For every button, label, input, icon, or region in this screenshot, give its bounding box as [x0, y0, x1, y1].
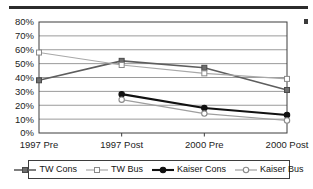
series-line — [39, 53, 287, 79]
data-point-marker — [202, 65, 207, 70]
y-axis-tick-label: 80% — [15, 16, 35, 27]
data-series-group — [37, 50, 290, 123]
legend-item-kaiser-bus[interactable]: Kaiser Bus — [235, 165, 304, 175]
legend-marker-icon — [152, 165, 174, 175]
legend-marker-icon — [86, 165, 108, 175]
y-axis-tick-label: 70% — [15, 30, 35, 41]
data-point-marker — [202, 111, 207, 116]
x-axis-tick-label: 1997 Pre — [20, 139, 59, 150]
x-axis-tick-label: 1997 Post — [100, 139, 143, 150]
legend-item-tw-cons[interactable]: TW Cons — [14, 165, 77, 175]
x-axis-tick-labels: 1997 Pre1997 Post2000 Pre2000 Post — [20, 139, 309, 150]
data-point-marker — [202, 71, 207, 76]
data-point-marker — [37, 50, 42, 55]
legend-item-tw-bus[interactable]: TW Bus — [86, 165, 143, 175]
legend-item-label: Kaiser Cons — [177, 165, 226, 174]
y-axis-tick-label: 0% — [20, 127, 34, 138]
legend-marker-icon — [235, 165, 257, 175]
y-axis-tick-label: 20% — [15, 100, 35, 111]
data-point-marker — [284, 112, 289, 117]
series-line — [39, 61, 287, 90]
data-series — [37, 50, 290, 81]
x-axis-tick-label: 2000 Post — [266, 139, 309, 150]
data-point-marker — [202, 105, 207, 110]
legend-item-label: TW Cons — [39, 165, 77, 174]
y-axis-tick-label: 50% — [15, 58, 35, 69]
data-point-marker — [119, 91, 124, 96]
legend-marker-icon — [14, 165, 36, 175]
data-point-marker — [285, 87, 290, 92]
y-axis-tick-label: 30% — [15, 86, 35, 97]
y-axis-tick-label: 40% — [15, 72, 35, 83]
y-axis-tick-labels: 0%10%20%30%40%50%60%70%80% — [15, 16, 35, 138]
data-point-marker — [37, 78, 42, 83]
x-axis-tick-label: 2000 Pre — [185, 139, 224, 150]
y-axis-tick-label: 60% — [15, 44, 35, 55]
chart-legend: TW ConsTW BusKaiser ConsKaiser Bus — [28, 160, 290, 179]
data-point-marker — [285, 76, 290, 81]
x-axis-tick-marks — [122, 133, 205, 137]
legend-item-label: TW Bus — [111, 165, 143, 174]
chart-figure: 0%10%20%30%40%50%60%70%80% 1997 Pre1997 … — [0, 0, 313, 189]
legend-item-kaiser-cons[interactable]: Kaiser Cons — [152, 165, 226, 175]
data-point-marker — [119, 63, 124, 68]
legend-item-label: Kaiser Bus — [260, 165, 304, 174]
data-point-marker — [119, 97, 124, 102]
y-axis-tick-label: 10% — [15, 114, 35, 125]
data-point-marker — [284, 118, 289, 123]
